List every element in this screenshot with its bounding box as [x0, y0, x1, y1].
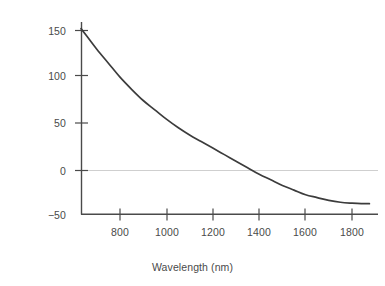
ytick-label-50: 50	[40, 117, 66, 129]
xtick-label-1400: 1400	[247, 226, 271, 238]
xtick-label-1800: 1800	[340, 226, 364, 238]
x-axis-title: Wavelength (nm)	[0, 261, 385, 273]
xtick-label-800: 800	[111, 226, 129, 238]
dispersion-curve	[81, 29, 369, 204]
ytick-label-100: 100	[40, 70, 66, 82]
plot-area	[0, 0, 385, 286]
xtick-label-1000: 1000	[155, 226, 179, 238]
ytick-label-150: 150	[40, 25, 66, 37]
xtick-label-1200: 1200	[201, 226, 225, 238]
material-dispersion-chart: 150 100 50 0 −50 800 1000 1200 1400 1600…	[0, 0, 385, 286]
ytick-label-minus50: −50	[36, 209, 66, 221]
xtick-label-1600: 1600	[293, 226, 317, 238]
ytick-label-0: 0	[40, 165, 66, 177]
